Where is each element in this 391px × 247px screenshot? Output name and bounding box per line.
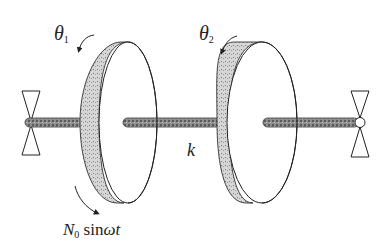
forcing-torque-label: N0 sinωt — [63, 220, 120, 240]
right-shaft — [263, 118, 359, 127]
theta2-symbol: θ — [199, 22, 209, 44]
theta2-label: θ2 — [199, 22, 214, 45]
theta1-rotation-arrow-icon — [79, 35, 94, 50]
theta1-symbol: θ — [54, 22, 64, 44]
theta1-subscript: 1 — [64, 34, 69, 45]
time-symbol: t — [115, 220, 120, 239]
stiffness-label: k — [187, 140, 195, 161]
torsional-system-diagram: θ1 θ2 k N0 sinωt — [0, 0, 391, 247]
theta1-label: θ1 — [54, 22, 69, 45]
sine-function: sin — [84, 220, 104, 239]
forcing-amplitude-symbol: N — [63, 220, 74, 239]
omega-symbol: ω — [103, 220, 115, 239]
torque-arrow-icon — [75, 186, 97, 213]
left-shaft — [25, 118, 83, 127]
forcing-amplitude-subscript: 0 — [74, 229, 79, 240]
torsional-shaft-k — [123, 118, 220, 127]
theta2-subscript: 2 — [209, 34, 214, 45]
stiffness-symbol: k — [187, 140, 195, 160]
